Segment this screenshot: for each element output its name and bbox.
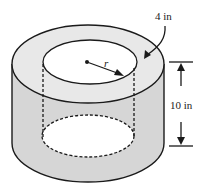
diagram-canvas: r 4 in 10 in [0, 0, 208, 187]
hollow-cylinder-figure: r 4 in 10 in [0, 0, 208, 187]
height-label: 10 in [170, 99, 193, 111]
radius-label: r [104, 57, 109, 69]
height-up-arrow-icon [177, 63, 185, 71]
thickness-label: 4 in [155, 10, 172, 22]
inner-top-ellipse [43, 40, 137, 84]
height-down-arrow-icon [177, 137, 185, 145]
inner-bottom-ellipse [42, 115, 134, 157]
